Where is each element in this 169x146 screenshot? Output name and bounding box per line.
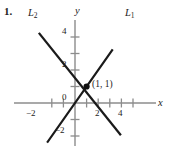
y-axis-label: y: [75, 6, 80, 17]
y-tick-label-2: 2: [62, 60, 67, 69]
intersection-point-label: (1, 1): [92, 80, 113, 90]
math-figure: 1. L2 L1 y x 4 2 0 −2 −2 2 4 (1, 1): [0, 0, 169, 146]
line-label-L1: L1: [125, 8, 135, 19]
x-tick-label-2: 2: [95, 109, 100, 118]
intersection-point-marker: [84, 83, 90, 89]
line-label-L2-subscript: 2: [34, 11, 38, 20]
coordinate-plot: [0, 0, 169, 146]
y-tick-label-minus-2: −2: [55, 126, 65, 135]
x-axis-label: x: [158, 98, 163, 109]
x-tick-label-minus-2: −2: [26, 109, 36, 118]
origin-label: 0: [62, 93, 67, 102]
problem-number: 1.: [4, 6, 12, 17]
line-label-L2: L2: [28, 8, 38, 19]
line-label-L1-subscript: 1: [131, 11, 135, 20]
y-tick-label-4: 4: [62, 27, 67, 36]
x-tick-label-4: 4: [118, 109, 123, 118]
axes-group: [14, 20, 156, 146]
